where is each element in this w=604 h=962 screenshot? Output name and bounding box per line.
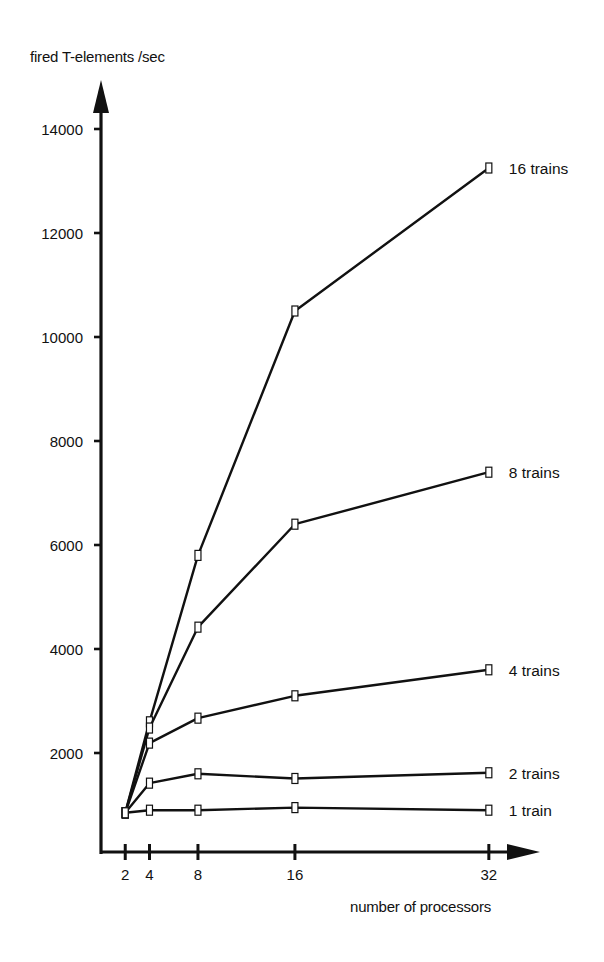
- x-tick-label: 4: [145, 866, 153, 883]
- data-point-marker: [122, 808, 128, 818]
- y-tick-label: 4000: [50, 641, 83, 658]
- series-label: 16 trains: [509, 160, 569, 177]
- data-point-marker: [146, 723, 152, 733]
- data-point-marker: [195, 622, 201, 632]
- y-tick-label: 12000: [41, 225, 83, 242]
- data-point-marker: [486, 805, 492, 815]
- x-tick-label: 2: [121, 866, 129, 883]
- data-point-marker: [486, 467, 492, 477]
- data-point-marker: [146, 738, 152, 748]
- series-line: [125, 808, 489, 813]
- x-axis-arrow-icon: [507, 844, 540, 860]
- y-tick-label: 8000: [50, 433, 83, 450]
- data-point-marker: [486, 163, 492, 173]
- data-point-marker: [146, 805, 152, 815]
- data-point-marker: [195, 805, 201, 815]
- line-chart: 20004000600080001000012000140002481632 1…: [0, 0, 604, 962]
- data-point-marker: [146, 778, 152, 788]
- x-tick-label: 8: [194, 866, 202, 883]
- y-tick-label: 6000: [50, 537, 83, 554]
- series-line: [125, 670, 489, 813]
- y-tick-label: 10000: [41, 329, 83, 346]
- data-point-marker: [486, 665, 492, 675]
- series-16-trains: [122, 163, 492, 818]
- axes: 20004000600080001000012000140002481632: [41, 80, 540, 883]
- data-point-marker: [195, 769, 201, 779]
- series-4-trains: [122, 665, 492, 818]
- data-point-marker: [292, 691, 298, 701]
- series-label: 4 trains: [509, 662, 560, 679]
- series-line: [125, 472, 489, 813]
- data-point-marker: [292, 306, 298, 316]
- y-axis-arrow-icon: [93, 80, 109, 113]
- data-point-marker: [292, 519, 298, 529]
- series-label: 8 trains: [509, 464, 560, 481]
- series-label: 1 train: [509, 802, 552, 819]
- data-point-marker: [292, 803, 298, 813]
- series-labels: 16 trains8 trains4 trains2 trains1 train: [509, 160, 569, 819]
- y-tick-label: 2000: [50, 745, 83, 762]
- series-label: 2 trains: [509, 765, 560, 782]
- series-line: [125, 168, 489, 813]
- x-tick-label: 16: [287, 866, 304, 883]
- series-8-trains: [122, 467, 492, 818]
- data-point-marker: [195, 550, 201, 560]
- series-group: [122, 163, 492, 818]
- data-point-marker: [486, 768, 492, 778]
- data-point-marker: [292, 773, 298, 783]
- series-1-train: [122, 803, 492, 818]
- x-tick-label: 32: [480, 866, 497, 883]
- data-point-marker: [195, 713, 201, 723]
- y-tick-label: 14000: [41, 121, 83, 138]
